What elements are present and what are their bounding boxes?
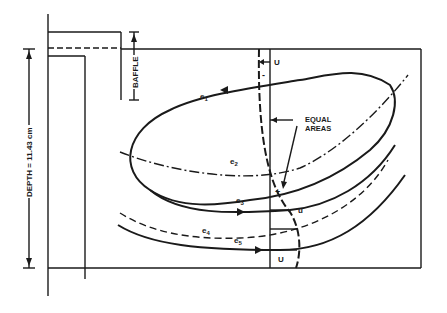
tank-flow-diagram: BAFFLE DEPTH = 11.43 cm EQUAL — [0, 0, 447, 313]
u-top-label: U — [274, 58, 280, 67]
streamline-labels: e1 e2 e3 e4 e5 — [200, 92, 244, 246]
plus-sign: + — [275, 187, 280, 197]
minus-sign: - — [262, 70, 265, 80]
e3-arrow — [237, 208, 245, 216]
baffle-label: BAFFLE — [131, 56, 140, 88]
e5-arrow — [255, 246, 263, 254]
inlet-structure — [48, 14, 121, 296]
baffle-dimension: BAFFLE — [129, 32, 140, 100]
streamline-e2 — [120, 75, 408, 176]
e3-label: e3 — [236, 196, 244, 206]
e4-label: e4 — [202, 226, 210, 236]
depth-dimension: DEPTH = 11.43 cm — [23, 49, 35, 268]
equal-areas-callout: EQUAL AREAS — [270, 115, 332, 189]
equal-label: EQUAL — [305, 115, 332, 124]
u-bottom-label: U — [278, 255, 284, 264]
e2-label: e2 — [230, 157, 238, 167]
areas-label: AREAS — [305, 124, 331, 133]
streamline-e3 — [150, 145, 395, 212]
u-mid-label: u — [298, 206, 303, 215]
depth-label: DEPTH = 11.43 cm — [25, 127, 34, 197]
velocity-arrows — [259, 59, 298, 250]
e1-label: e1 — [200, 92, 208, 102]
